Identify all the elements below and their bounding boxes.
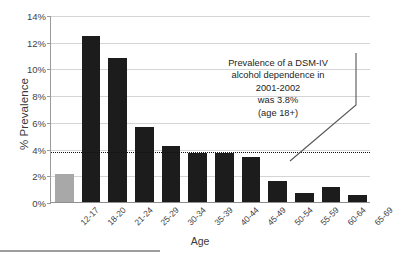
bar-21-24 (108, 58, 127, 202)
x-axis-tick-label: 18-20 (105, 205, 127, 227)
x-axis-tick-label: 40-44 (239, 205, 261, 227)
y-axis-tick-label: 10% (12, 64, 46, 75)
annotation-callout: Prevalence of a DSM-IValcohol dependence… (208, 57, 348, 119)
y-axis-tick-label: 12% (12, 37, 46, 48)
x-axis-tick-label: 45-49 (265, 205, 287, 227)
y-axis-tick-label: 2% (12, 171, 46, 182)
x-axis-tick-label: 30-34 (185, 205, 207, 227)
y-axis-tick-label: 6% (12, 117, 46, 128)
x-axis-tick-label: 55-59 (319, 205, 341, 227)
y-axis-tick-labels: 0%2%4%6%8%10%12%14% (8, 0, 46, 263)
x-axis-tick-label: 21-24 (132, 205, 154, 227)
bar-45-49 (242, 157, 261, 202)
bar-30-34 (162, 146, 181, 202)
annotation-line-4: was 3.8% (208, 94, 348, 106)
x-axis-tick-label: 65-69 (372, 205, 394, 227)
annotation-line-2: alcohol dependence in (208, 69, 348, 81)
x-axis-tick-label: 12-17 (79, 205, 101, 227)
bar-60-64 (322, 187, 341, 202)
annotation-line-5: (age 18+) (208, 107, 348, 119)
annotation-line-3: 2001-2002 (208, 82, 348, 94)
x-axis-tick-label: 25-29 (159, 205, 181, 227)
bottom-divider-rule (0, 250, 160, 252)
y-axis-tick-label: 14% (12, 11, 46, 22)
x-axis-tick-label: 35-39 (212, 205, 234, 227)
bar-18-20 (82, 36, 101, 202)
bar-40-44 (215, 153, 234, 202)
x-axis-tick-label: 60-64 (345, 205, 367, 227)
y-axis-tick-label: 0% (12, 198, 46, 209)
bar-50-54 (268, 181, 287, 202)
x-axis-title: Age (140, 235, 260, 247)
y-axis-tick-label: 4% (12, 144, 46, 155)
bar-12-17 (55, 174, 74, 202)
bar-25-29 (135, 127, 154, 202)
x-axis-tick-label: 50-54 (292, 205, 314, 227)
annotation-line-1: Prevalence of a DSM-IV (208, 57, 348, 69)
y-axis-tick-label: 8% (12, 91, 46, 102)
reference-line-3-8-percent (51, 152, 370, 153)
bar-35-39 (188, 153, 207, 202)
